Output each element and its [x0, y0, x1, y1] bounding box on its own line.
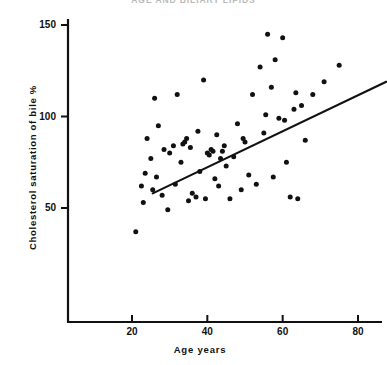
x-tick-label: 80 — [343, 326, 373, 338]
scatter-point — [276, 116, 281, 121]
scatter-point — [273, 57, 278, 62]
scatter-point — [337, 63, 342, 68]
scatter-point — [288, 195, 293, 200]
scatter-point — [284, 160, 289, 165]
scatter-point — [265, 32, 270, 37]
scatter-point — [250, 92, 255, 97]
scatter-point — [212, 176, 217, 181]
scatter-point — [220, 149, 225, 154]
scatter-point — [258, 65, 263, 70]
scatter-point — [133, 229, 138, 234]
scatter-point — [263, 112, 268, 117]
scatter-point — [310, 92, 315, 97]
scatter-point — [214, 132, 219, 137]
scatter-point — [143, 171, 148, 176]
y-axis-title: Cholesterol saturation of bile % — [27, 68, 38, 268]
scatter-point — [239, 187, 244, 192]
x-tick-label: 40 — [192, 326, 222, 338]
scatter-point — [210, 149, 215, 154]
scatter-point — [148, 156, 153, 161]
scatter-point — [184, 136, 189, 141]
scatter-point — [194, 195, 199, 200]
scatter-point — [145, 136, 150, 141]
scatter-point — [269, 85, 274, 90]
x-axis-title: Age years — [130, 344, 270, 355]
scatter-point — [222, 143, 227, 148]
scatter-point — [156, 123, 161, 128]
scatter-point — [171, 143, 176, 148]
x-tick-label: 20 — [117, 326, 147, 338]
plot-canvas — [0, 0, 387, 365]
scatter-point — [167, 151, 172, 156]
scatter-point — [141, 200, 146, 205]
scatter-point — [303, 138, 308, 143]
scatter-point — [188, 145, 193, 150]
x-tick-label: 60 — [268, 326, 298, 338]
scatter-point — [261, 130, 266, 135]
scatter-point — [282, 118, 287, 123]
scatter-point — [291, 107, 296, 112]
scatter-point — [227, 196, 232, 201]
scatter-point — [178, 160, 183, 165]
scatter-point — [295, 196, 300, 201]
y-tick-label: 150 — [22, 19, 56, 31]
scatter-points — [133, 32, 341, 235]
scatter-point — [280, 35, 285, 40]
chart-figure: AGE AND BILIARY LIPIDS 5010015020406080 … — [0, 0, 387, 365]
scatter-point — [175, 92, 180, 97]
scatter-point — [235, 121, 240, 126]
scatter-point — [152, 96, 157, 101]
scatter-point — [246, 173, 251, 178]
scatter-point — [299, 103, 304, 108]
scatter-point — [160, 193, 165, 198]
scatter-point — [243, 140, 248, 145]
scatter-point — [186, 198, 191, 203]
scatter-point — [216, 184, 221, 189]
scatter-point — [203, 196, 208, 201]
scatter-point — [162, 147, 167, 152]
scatter-point — [254, 182, 259, 187]
scatter-point — [224, 163, 229, 168]
scatter-point — [190, 191, 195, 196]
scatter-point — [195, 129, 200, 134]
scatter-point — [154, 174, 159, 179]
scatter-point — [271, 174, 276, 179]
scatter-point — [165, 207, 170, 212]
scatter-point — [293, 90, 298, 95]
scatter-point — [139, 184, 144, 189]
scatter-point — [322, 79, 327, 84]
scatter-point — [201, 77, 206, 82]
scatter-point — [207, 152, 212, 157]
